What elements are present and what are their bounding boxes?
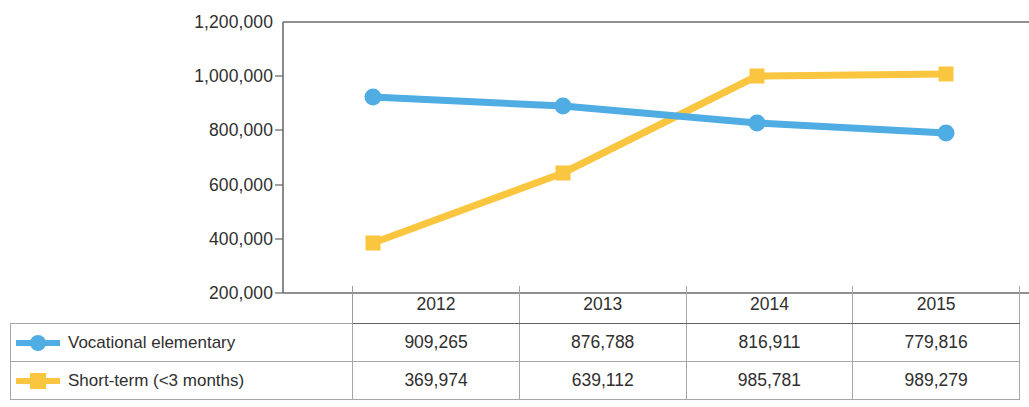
table-header-year: 2013 (519, 286, 686, 324)
series-vocational-elementary (365, 89, 955, 142)
legend-item-vocational-elementary: Vocational elementary (11, 324, 353, 362)
data-point-marker (938, 125, 955, 142)
table-row: Vocational elementary 909,265 876,788 81… (11, 324, 1020, 362)
table-cell: 989,279 (853, 362, 1020, 400)
data-point-marker (366, 236, 381, 251)
legend-label: Short-term (<3 months) (68, 371, 244, 391)
data-point-marker (365, 89, 382, 106)
table-cell: 816,911 (686, 324, 853, 362)
chart-page: 1,200,000 1,000,000 800,000 600,000 400,… (0, 0, 1029, 407)
table-header-year: 2012 (353, 286, 520, 324)
data-point-marker (556, 166, 571, 181)
circle-marker-icon (15, 333, 61, 353)
chart-plot-area: 1,200,000 1,000,000 800,000 600,000 400,… (0, 0, 1029, 300)
square-marker-icon (15, 371, 61, 391)
legend-label: Vocational elementary (68, 333, 235, 353)
table-header-row: 2012 2013 2014 2015 (11, 286, 1020, 324)
table-header-legend-spacer (11, 286, 353, 324)
legend-item-short-term: Short-term (<3 months) (11, 362, 353, 400)
data-point-marker (749, 115, 766, 132)
table-cell: 876,788 (519, 324, 686, 362)
chart-data-table: 2012 2013 2014 2015 Vocational elementar… (10, 286, 1020, 400)
table-header-year: 2014 (686, 286, 853, 324)
table-row: Short-term (<3 months) 369,974 639,112 9… (11, 362, 1020, 400)
data-point-marker (750, 69, 765, 84)
table-cell: 369,974 (353, 362, 520, 400)
table-cell: 985,781 (686, 362, 853, 400)
table-cell: 779,816 (853, 324, 1020, 362)
line-chart-svg (0, 0, 1029, 300)
data-point-marker (939, 67, 954, 82)
table-cell: 909,265 (353, 324, 520, 362)
table-cell: 639,112 (519, 362, 686, 400)
table-header-year: 2015 (853, 286, 1020, 324)
y-axis-ticks (275, 76, 283, 293)
data-point-marker (555, 98, 572, 115)
series-short-term (366, 67, 954, 251)
